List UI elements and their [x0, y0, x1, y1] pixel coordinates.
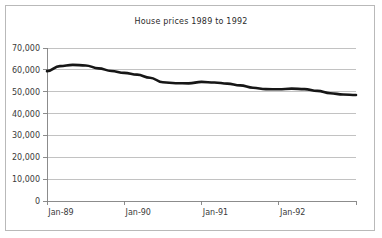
y-tick-label: 20,000 — [12, 153, 40, 162]
x-tick-label: Jan-90 — [125, 208, 151, 217]
y-tick-label: 30,000 — [12, 131, 40, 140]
chart-plot: 010,00020,00030,00040,00050,00060,00070,… — [6, 6, 376, 232]
x-axis-ticks: Jan-89Jan-90Jan-91Jan-92 — [47, 201, 356, 217]
y-axis-ticks: 010,00020,00030,00040,00050,00060,00070,… — [12, 44, 47, 206]
y-tick-label: 60,000 — [12, 66, 40, 75]
x-tick-label: Jan-89 — [47, 208, 73, 217]
y-tick-label: 0 — [35, 197, 40, 206]
y-tick-label: 70,000 — [12, 44, 40, 53]
data-series-line — [47, 65, 356, 95]
x-tick-label: Jan-92 — [279, 208, 305, 217]
x-tick-label: Jan-91 — [202, 208, 228, 217]
y-tick-label: 10,000 — [12, 175, 40, 184]
y-tick-label: 40,000 — [12, 110, 40, 119]
y-tick-label: 50,000 — [12, 88, 40, 97]
chart-container: House prices 1989 to 1992 010,00020,0003… — [5, 5, 375, 231]
